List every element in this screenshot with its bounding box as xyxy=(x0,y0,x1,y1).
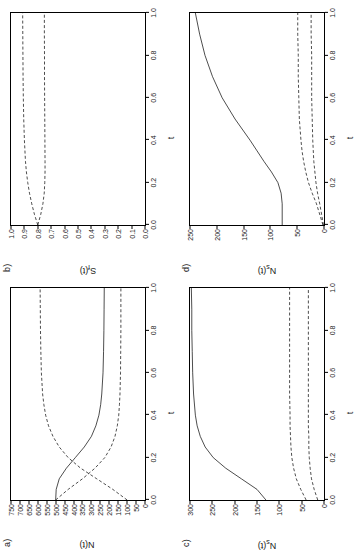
tick-mark xyxy=(257,501,258,504)
panel-b-x-tick: 0.8 xyxy=(150,51,157,61)
panel-b-y-tick: 0.7 xyxy=(48,229,55,239)
panel-c-y-tick: 50 xyxy=(298,504,305,512)
tick-mark xyxy=(243,226,244,229)
panel-b-y-axis-label-text: Sf(t) xyxy=(80,266,96,276)
panel-d-y-tick: 150 xyxy=(240,229,247,241)
panel-a-y-tick: 550 xyxy=(43,504,50,516)
panel-b-y-tick: 0.4 xyxy=(88,229,95,239)
panel-c-y-axis-label: Ns(t) xyxy=(227,539,307,551)
tick-mark xyxy=(212,501,213,504)
panel-d-lines xyxy=(190,13,324,225)
panel-d-x-tick: 0.6 xyxy=(329,93,336,103)
panel-a-y-tick: 500 xyxy=(52,504,59,516)
panel-d-x-tick: 0.0 xyxy=(329,220,336,230)
panel-d: d) Ns(t) 0501001502002500.00.20.40.60.81… xyxy=(179,2,355,274)
tick-mark xyxy=(82,501,83,504)
tick-mark xyxy=(146,414,149,415)
tick-mark xyxy=(146,224,149,225)
panel-d-y-tick: 200 xyxy=(213,229,220,241)
panel-a-tag: a) xyxy=(2,539,12,547)
tick-mark xyxy=(37,501,38,504)
panel-c-plot-area: 0501001502002503000.00.20.40.60.81.0 xyxy=(189,287,325,501)
panel-b: b) Sf(t) 0.00.10.20.30.40.50.60.70.80.91… xyxy=(0,2,176,274)
panel-c-x-tick: 0.4 xyxy=(329,410,336,420)
panel-d-x-axis-label: t xyxy=(345,2,355,274)
panel-a-series-solid xyxy=(56,288,105,500)
tick-mark xyxy=(190,501,191,504)
tick-mark xyxy=(146,499,149,500)
panel-a-x-tick: 0.0 xyxy=(150,495,157,505)
panel-c-y-tick: 0 xyxy=(321,504,328,508)
panel-a-y-tick: 650 xyxy=(25,504,32,516)
panel-b-y-axis-label: Sf(t) xyxy=(48,264,128,276)
tick-mark xyxy=(131,226,132,229)
tick-mark xyxy=(73,501,74,504)
panel-a-y-axis-label-text: N(t) xyxy=(80,540,95,550)
panel-c-x-axis-label: t xyxy=(345,277,355,549)
panel-d-x-tick: 1.0 xyxy=(329,8,336,18)
tick-mark xyxy=(146,287,149,288)
tick-mark xyxy=(37,226,38,229)
panel-a-y-tick: 100 xyxy=(124,504,131,516)
panel-c-x-tick: 0.2 xyxy=(329,453,336,463)
tick-mark xyxy=(325,414,328,415)
tick-mark xyxy=(325,457,328,458)
panel-c: c) Ns(t) 0501001502002503000.00.20.40.60… xyxy=(179,277,355,549)
tick-mark xyxy=(325,287,328,288)
panel-b-tag: b) xyxy=(2,264,12,272)
panel-c-y-tick: 150 xyxy=(254,504,261,516)
panel-a-y-tick: 250 xyxy=(97,504,104,516)
tick-mark xyxy=(325,499,328,500)
panel-c-series-solid xyxy=(191,288,266,500)
panel-d-y-tick: 250 xyxy=(187,229,194,241)
panel-a-y-tick: 600 xyxy=(34,504,41,516)
tick-mark xyxy=(279,501,280,504)
panel-c-y-tick: 100 xyxy=(276,504,283,516)
panel-b-x-tick: 0.4 xyxy=(150,135,157,145)
tick-mark xyxy=(19,501,20,504)
panel-a-y-tick: 300 xyxy=(88,504,95,516)
panel-d-y-tick: 100 xyxy=(267,229,274,241)
tick-mark xyxy=(24,226,25,229)
panel-b-x-axis-label: t xyxy=(166,2,176,274)
tick-mark xyxy=(190,226,191,229)
figure-rotator: a) N(t) 05010015020025030035040045050055… xyxy=(0,0,356,551)
tick-mark xyxy=(51,226,52,229)
tick-mark xyxy=(11,501,12,504)
tick-mark xyxy=(325,12,328,13)
panel-b-plot-area: 0.00.10.20.30.40.50.60.70.80.91.00.00.20… xyxy=(10,12,146,226)
panel-c-x-tick: 0.8 xyxy=(329,326,336,336)
tick-mark xyxy=(55,501,56,504)
panel-d-y-axis-label-text: Ns(t) xyxy=(258,266,277,276)
tick-mark xyxy=(325,372,328,373)
panel-a-x-tick: 0.4 xyxy=(150,410,157,420)
tick-mark xyxy=(301,501,302,504)
panel-b-y-tick: 0.9 xyxy=(21,229,28,239)
panel-b-y-tick: 0.1 xyxy=(128,229,135,239)
figure: a) N(t) 05010015020025030035040045050055… xyxy=(0,0,356,551)
panel-c-x-tick: 0.6 xyxy=(329,368,336,378)
tick-mark xyxy=(127,501,128,504)
tick-mark xyxy=(325,97,328,98)
tick-mark xyxy=(64,501,65,504)
tick-mark xyxy=(118,226,119,229)
tick-mark xyxy=(91,226,92,229)
panel-d-plot-area: 0501001502002500.00.20.40.60.81.0 xyxy=(189,12,325,226)
tick-mark xyxy=(325,182,328,183)
panel-d-y-tick: 0 xyxy=(321,229,328,233)
tick-mark xyxy=(297,226,298,229)
panel-b-y-tick: 0.5 xyxy=(75,229,82,239)
panel-a-x-tick: 0.8 xyxy=(150,326,157,336)
panel-a-y-axis-label: N(t) xyxy=(47,540,127,550)
panel-a: a) N(t) 05010015020025030035040045050055… xyxy=(0,277,176,549)
panel-c-y-tick: 250 xyxy=(209,504,216,516)
panel-a-lines xyxy=(11,288,145,500)
panel-a-y-tick: 700 xyxy=(16,504,23,516)
panel-a-y-tick: 0 xyxy=(142,504,149,508)
panel-c-x-tick: 1.0 xyxy=(329,283,336,293)
panel-a-y-tick: 50 xyxy=(133,504,140,512)
tick-mark xyxy=(118,501,119,504)
tick-mark xyxy=(146,329,149,330)
panel-c-y-axis-label-text: Ns(t) xyxy=(258,541,277,551)
tick-mark xyxy=(109,501,110,504)
